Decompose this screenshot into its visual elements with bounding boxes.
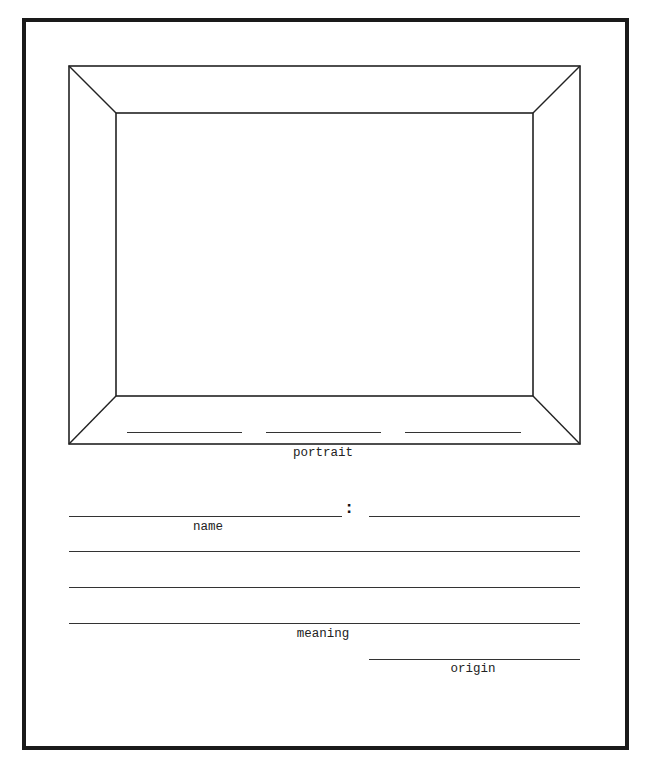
portrait-caption-line-1[interactable] [127, 432, 242, 433]
worksheet-page: portrait : name meaning origin [0, 0, 653, 767]
name-separator: : [344, 499, 354, 518]
portrait-area [116, 113, 533, 396]
portrait-frame [0, 0, 653, 767]
portrait-caption-line-3[interactable] [405, 432, 521, 433]
meaning-line-1[interactable] [69, 551, 580, 552]
origin-label: origin [450, 662, 495, 676]
meaning-line-2[interactable] [69, 587, 580, 588]
name-line[interactable] [69, 516, 342, 517]
meaning-label: meaning [297, 627, 350, 641]
name-second-line[interactable] [369, 516, 580, 517]
meaning-line-3[interactable] [69, 623, 580, 624]
portrait-caption-line-2[interactable] [266, 432, 381, 433]
portrait-label: portrait [293, 446, 353, 460]
name-label: name [193, 520, 223, 534]
origin-line[interactable] [369, 659, 580, 660]
